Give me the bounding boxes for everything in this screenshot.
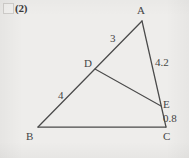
- vertex-label-d: D: [84, 58, 92, 69]
- vertex-label-a: A: [137, 5, 145, 16]
- length-label-db: 4: [58, 90, 64, 101]
- vertex-label-c: C: [163, 131, 170, 142]
- vertex-label-e: E: [163, 99, 170, 110]
- segment-ab: [38, 21, 142, 127]
- length-label-ad: 3: [110, 33, 116, 44]
- length-label-ec: 0.8: [163, 113, 177, 124]
- vertex-label-b: B: [26, 131, 33, 142]
- length-label-ae: 4.2: [155, 57, 169, 68]
- geometry-figure-screenshot: (2) A B C D E 3 4 4.2 0.8: [0, 0, 189, 158]
- segment-de: [95, 69, 161, 106]
